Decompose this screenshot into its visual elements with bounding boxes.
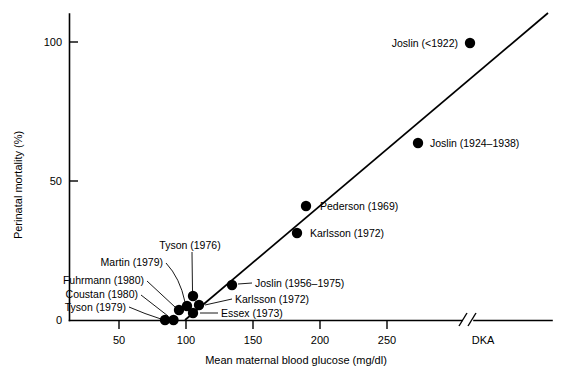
x-tick-label-250: 250: [378, 334, 396, 346]
label-joslin-1956-1975: Joslin (1956–1975): [255, 277, 344, 289]
label-coustan-1980: Coustan (1980): [66, 288, 138, 300]
label-joslin-1924-1938: Joslin (1924–1938): [430, 137, 519, 149]
leader-joslin-1956-1975: [238, 283, 252, 284]
point-label-group: Tyson (1976) Martin (1979) Fuhrmann (198…: [63, 37, 519, 319]
datapoint-pederson-1969[interactable]: [301, 201, 311, 211]
leader-tyson-1979: [129, 307, 161, 319]
label-karlsson-1972-mid: Karlsson (1972): [310, 227, 384, 239]
x-tick-label-200: 200: [311, 334, 329, 346]
chart-figure: 100 50 0 50 100 150 200 250 DKA Mean mat…: [0, 0, 562, 367]
y-tick-label-0: 0: [56, 314, 62, 326]
x-axis-title: Mean maternal blood glucose (mg/dl): [205, 354, 387, 366]
y-axis-title: Perinatal mortality (%): [12, 131, 24, 239]
x-tick-label-dka: DKA: [472, 334, 495, 346]
y-tick-label-50: 50: [50, 175, 62, 187]
x-tick-label-100: 100: [177, 334, 195, 346]
leader-martin-1979: [166, 263, 185, 302]
label-joslin-lt-1922: Joslin (<1922): [392, 37, 458, 49]
leader-coustan-1980: [141, 295, 168, 316]
y-tick-label-100: 100: [44, 36, 62, 48]
label-pederson-1969: Pederson (1969): [320, 200, 398, 212]
label-essex-1973: Essex (1973): [221, 307, 283, 319]
datapoint-karlsson-1972-mid[interactable]: [292, 228, 302, 238]
datapoint-joslin-1956-1975[interactable]: [227, 280, 237, 290]
label-fuhrmann-1980: Fuhrmann (1980): [63, 274, 144, 286]
label-karlsson-1972-low: Karlsson (1972): [235, 293, 309, 305]
datapoint-karlsson-1972-low[interactable]: [194, 300, 204, 310]
axis-break-icon: [459, 313, 476, 326]
trend-line: [185, 13, 548, 320]
label-martin-1979: Martin (1979): [101, 256, 163, 268]
scatter-plot: 100 50 0 50 100 150 200 250 DKA Mean mat…: [0, 0, 562, 367]
x-tick-label-150: 150: [244, 334, 262, 346]
datapoint-tyson-1976[interactable]: [188, 291, 198, 301]
datapoint-coustan-1980[interactable]: [168, 315, 178, 325]
datapoint-joslin-1924-1938[interactable]: [413, 138, 423, 148]
label-tyson-1976: Tyson (1976): [159, 239, 220, 251]
datapoint-joslin-lt-1922[interactable]: [465, 38, 475, 48]
leader-tyson-1976: [192, 252, 193, 291]
x-tick-label-50: 50: [113, 334, 125, 346]
label-tyson-1979: Tyson (1979): [65, 301, 126, 313]
